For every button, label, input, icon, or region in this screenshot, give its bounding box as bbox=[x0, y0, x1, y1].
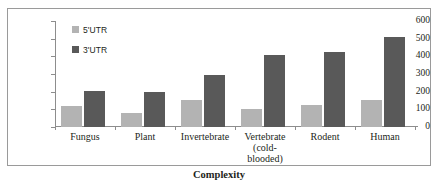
bar-5utr bbox=[61, 106, 82, 127]
x-axis-tick-mark bbox=[415, 126, 416, 130]
bar-5utr bbox=[121, 113, 142, 127]
x-axis-category-label: Human bbox=[349, 131, 421, 142]
bar-3utr bbox=[204, 75, 225, 127]
bar-group bbox=[295, 21, 355, 127]
bar-3utr bbox=[84, 91, 105, 127]
legend-label-3utr: 3'UTR bbox=[83, 45, 107, 55]
x-axis-tick-mark bbox=[55, 126, 56, 130]
legend-swatch-5utr-icon bbox=[72, 26, 79, 33]
bar-3utr bbox=[264, 55, 285, 127]
x-axis-tick-mark bbox=[235, 126, 236, 130]
bar-group bbox=[235, 21, 295, 127]
bar-3utr bbox=[144, 92, 165, 127]
bar-group bbox=[115, 21, 175, 127]
legend-swatch-3utr-icon bbox=[72, 46, 79, 53]
bar-5utr bbox=[301, 105, 322, 127]
bar-5utr bbox=[241, 109, 262, 127]
legend-label-5utr: 5'UTR bbox=[83, 25, 107, 35]
bar-3utr bbox=[384, 37, 405, 127]
chart-figure: Mean UTR length (nt) 6005004003002001000… bbox=[7, 8, 431, 166]
bar-3utr bbox=[324, 52, 345, 127]
bar-group bbox=[175, 21, 235, 127]
bar-5utr bbox=[361, 100, 382, 127]
plot-area bbox=[55, 21, 415, 127]
legend-item-5utr: 5'UTR bbox=[72, 23, 107, 36]
bar-5utr bbox=[181, 100, 202, 127]
chart-legend: 5'UTR 3'UTR bbox=[72, 23, 107, 63]
x-axis-tick-mark bbox=[295, 126, 296, 130]
x-axis-tick-mark bbox=[355, 126, 356, 130]
legend-item-3utr: 3'UTR bbox=[72, 43, 107, 56]
x-axis-title: Complexity bbox=[8, 169, 430, 180]
x-axis-tick-mark bbox=[115, 126, 116, 130]
bar-group bbox=[355, 21, 415, 127]
x-axis-tick-mark bbox=[175, 126, 176, 130]
